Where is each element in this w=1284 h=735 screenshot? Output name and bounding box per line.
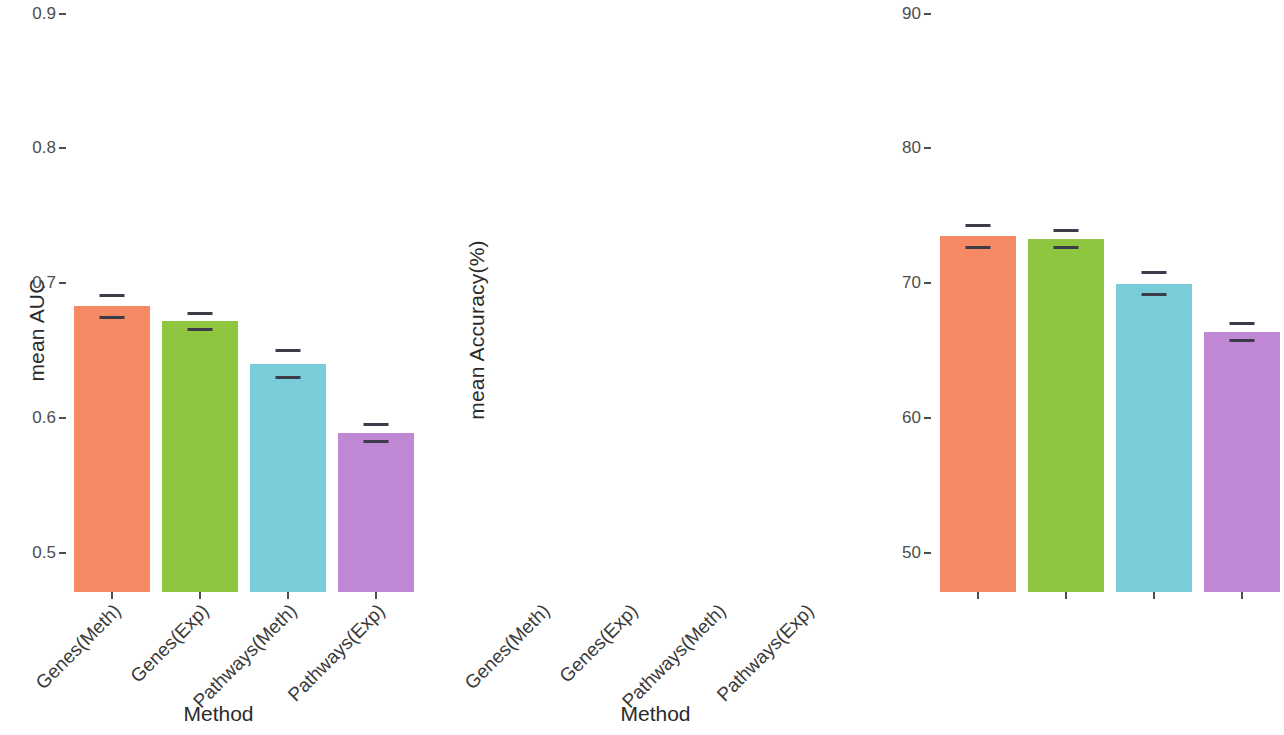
error-bar-cap-lower bbox=[1230, 322, 1255, 325]
bar[interactable] bbox=[162, 321, 238, 592]
y-tick-mark bbox=[924, 552, 931, 554]
y-tick-mark bbox=[924, 417, 931, 419]
y-tick-mark bbox=[59, 13, 66, 15]
x-tick-mark bbox=[1065, 592, 1067, 599]
bar-slot bbox=[938, 0, 1018, 592]
bar-group-left bbox=[68, 0, 420, 592]
y-tick-mark bbox=[59, 147, 66, 149]
y-tick-label: 0.5 bbox=[0, 543, 56, 563]
bar-slot bbox=[1202, 0, 1282, 592]
y-tick-label: 70 bbox=[861, 273, 921, 293]
y-tick-label: 0.6 bbox=[0, 408, 56, 428]
bar-group-right bbox=[934, 0, 1284, 592]
plot-area-right bbox=[934, 0, 1284, 592]
x-axis-labels-left: Genes(Meth)Genes(Exp)Pathways(Meth)Pathw… bbox=[0, 600, 437, 700]
x-tick-label: Genes(Exp) bbox=[126, 600, 213, 687]
bar-slot bbox=[336, 0, 416, 592]
y-tick-mark bbox=[59, 417, 66, 419]
y-tick-mark bbox=[59, 282, 66, 284]
error-bar-cap-upper bbox=[100, 316, 125, 319]
bar[interactable] bbox=[1204, 332, 1280, 592]
error-bar-cap-upper bbox=[1230, 339, 1255, 342]
error-bar-cap-upper bbox=[276, 376, 301, 379]
panel-mean-auc: mean AUC 0.9 0.8 0.7 0.6 0.5 Genes(Meth)… bbox=[0, 0, 437, 735]
y-tick-label: 0.7 bbox=[0, 273, 56, 293]
error-bar-cap-lower bbox=[1054, 229, 1079, 232]
y-tick-mark bbox=[924, 282, 931, 284]
bar-slot bbox=[1026, 0, 1106, 592]
x-axis-labels-right: Genes(Meth)Genes(Exp)Pathways(Meth)Pathw… bbox=[437, 600, 874, 700]
bar[interactable] bbox=[74, 306, 150, 592]
x-tick-mark bbox=[287, 592, 289, 599]
error-bar-cap-upper bbox=[1142, 293, 1167, 296]
error-bar-cap-lower bbox=[966, 224, 991, 227]
x-axis-ticks-left bbox=[68, 592, 420, 600]
x-axis-title-left: Method bbox=[0, 702, 437, 726]
y-tick-mark bbox=[924, 13, 931, 15]
panel-mean-accuracy: mean Accuracy(%) 90 80 70 60 50 Genes(Me… bbox=[437, 0, 874, 735]
x-axis-title-right: Method bbox=[437, 702, 874, 726]
bar-slot bbox=[72, 0, 152, 592]
y-tick-label: 50 bbox=[861, 543, 921, 563]
y-tick-label: 80 bbox=[861, 138, 921, 158]
error-bar-cap-upper bbox=[966, 246, 991, 249]
error-bar-cap-lower bbox=[100, 294, 125, 297]
plot-area-left bbox=[68, 0, 420, 592]
y-tick-mark bbox=[59, 552, 66, 554]
y-tick-mark bbox=[924, 147, 931, 149]
x-tick-mark bbox=[1241, 592, 1243, 599]
x-tick-mark bbox=[199, 592, 201, 599]
error-bar-cap-upper bbox=[188, 328, 213, 331]
bar[interactable] bbox=[1028, 239, 1104, 592]
bar[interactable] bbox=[338, 433, 414, 592]
bar[interactable] bbox=[250, 364, 326, 592]
error-bar-cap-upper bbox=[1054, 246, 1079, 249]
error-bar-cap-lower bbox=[276, 349, 301, 352]
x-tick-label: Genes(Exp) bbox=[555, 600, 642, 687]
y-tick-label: 0.8 bbox=[0, 138, 56, 158]
x-axis-ticks-right bbox=[934, 592, 1284, 600]
bar-slot bbox=[160, 0, 240, 592]
bar[interactable] bbox=[940, 236, 1016, 592]
y-tick-label: 90 bbox=[861, 4, 921, 24]
x-tick-mark bbox=[977, 592, 979, 599]
y-tick-label: 60 bbox=[861, 408, 921, 428]
error-bar-cap-lower bbox=[1142, 271, 1167, 274]
error-bar-cap-lower bbox=[188, 312, 213, 315]
bar[interactable] bbox=[1116, 284, 1192, 593]
y-axis-title-right: mean Accuracy(%) bbox=[465, 230, 489, 430]
x-tick-label: Genes(Meth) bbox=[461, 600, 555, 694]
x-tick-mark bbox=[111, 592, 113, 599]
error-bar-cap-upper bbox=[364, 440, 389, 443]
bar-slot bbox=[1114, 0, 1194, 592]
bar-slot bbox=[248, 0, 328, 592]
y-tick-label: 0.9 bbox=[0, 4, 56, 24]
x-tick-label: Genes(Meth) bbox=[32, 600, 126, 694]
error-bar-cap-lower bbox=[364, 423, 389, 426]
x-tick-mark bbox=[375, 592, 377, 599]
x-tick-mark bbox=[1153, 592, 1155, 599]
